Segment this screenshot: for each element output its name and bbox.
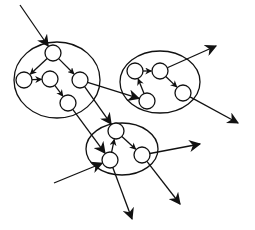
graph-node-c1: [108, 123, 124, 139]
cluster-ellipse-B: [120, 51, 200, 113]
diagram-canvas: [0, 0, 255, 230]
graph-node-c3: [102, 152, 118, 168]
graph-node-b4: [139, 93, 155, 109]
graph-node-a4: [72, 72, 88, 88]
cluster-graph-diagram: [0, 0, 255, 230]
graph-node-a1: [45, 45, 61, 61]
graph-node-a2: [16, 72, 32, 88]
edge-b2-to-b3: [166, 77, 177, 88]
edge-a5-to-c3: [73, 109, 105, 153]
edges-layer: [20, 5, 238, 219]
edge-c1-to-c2: [122, 136, 136, 149]
incoming-edge-to-c3: [54, 163, 102, 183]
edge-b4-to-b1: [138, 79, 144, 94]
graph-node-b2: [152, 63, 168, 79]
edge-a1-to-a4: [59, 59, 74, 74]
graph-node-a5: [60, 95, 76, 111]
graph-node-c2: [134, 147, 150, 163]
edge-c3-to-c1: [112, 139, 115, 152]
edge-a1-to-a2: [30, 58, 47, 74]
edge-a4-to-b4: [88, 82, 139, 98]
graph-node-b3: [175, 85, 191, 101]
graph-node-a3: [42, 71, 58, 87]
graph-node-b1: [127, 63, 143, 79]
incoming-edge-to-a1: [20, 5, 48, 46]
edge-a3-to-a5: [55, 85, 63, 96]
outgoing-edge-from-c2-5: [147, 161, 180, 204]
outgoing-edge-from-b3-2: [190, 97, 238, 123]
outgoing-edge-from-b2-1: [167, 46, 216, 68]
